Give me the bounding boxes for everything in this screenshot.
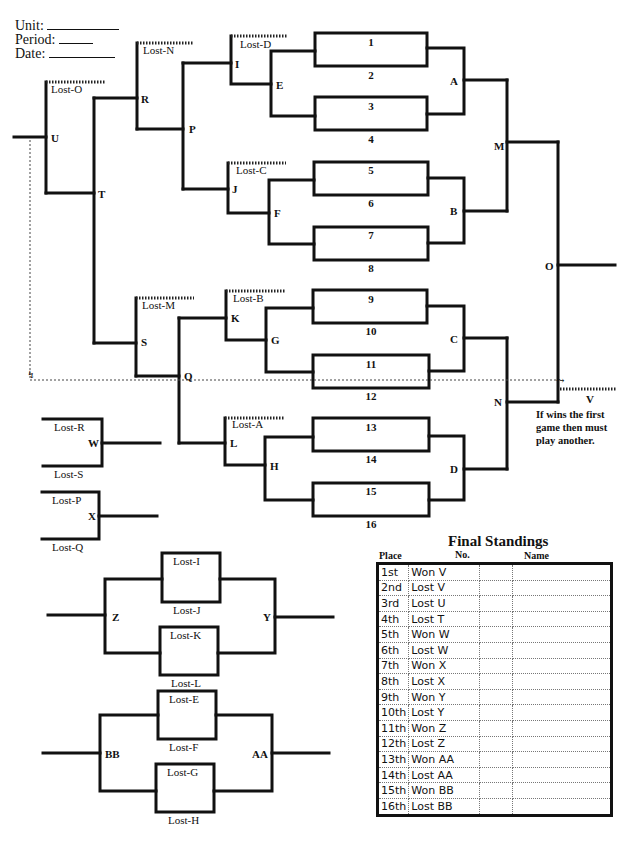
slot-15[interactable]: 15	[356, 485, 386, 497]
number-input[interactable]	[480, 658, 513, 674]
place-cell: 3rd	[378, 596, 409, 612]
place-cell: 11th	[378, 720, 409, 736]
bbaa-box2-bottom: Lost-H	[168, 814, 199, 826]
node-z: Z	[112, 611, 119, 623]
number-input[interactable]	[480, 611, 513, 627]
result-cell: Won BB	[409, 783, 480, 799]
number-input[interactable]	[480, 783, 513, 799]
number-input[interactable]	[480, 674, 513, 690]
node-d: D	[450, 463, 458, 475]
result-cell: Lost V	[409, 580, 480, 596]
number-input[interactable]	[480, 580, 513, 596]
slot-14[interactable]: 14	[356, 453, 386, 465]
place-cell: 10th	[378, 705, 409, 721]
name-input[interactable]	[513, 752, 612, 768]
result-cell: Lost Z	[409, 736, 480, 752]
slot-9[interactable]: 9	[356, 293, 386, 305]
name-input[interactable]	[513, 689, 612, 705]
name-input[interactable]	[513, 720, 612, 736]
place-cell: 5th	[378, 627, 409, 643]
name-input[interactable]	[513, 596, 612, 612]
node-p: P	[189, 123, 196, 135]
result-cell: Won W	[409, 627, 480, 643]
slot-2[interactable]: 2	[356, 69, 386, 81]
number-input[interactable]	[480, 736, 513, 752]
bbaa-box1-bottom: Lost-F	[169, 741, 198, 753]
name-input[interactable]	[513, 658, 612, 674]
name-input[interactable]	[513, 611, 612, 627]
zy-box1-bottom: Lost-J	[173, 604, 201, 616]
bbaa-box1-top: Lost-E	[169, 693, 199, 705]
name-input[interactable]	[513, 674, 612, 690]
place-cell: 4th	[378, 611, 409, 627]
result-cell: Won V	[409, 564, 480, 581]
node-t: T	[98, 188, 105, 200]
note-line-3: play another.	[536, 434, 607, 447]
standings-row: 9thWon Y	[378, 689, 612, 705]
name-input[interactable]	[513, 798, 612, 815]
result-cell: Won X	[409, 658, 480, 674]
name-input[interactable]	[513, 783, 612, 799]
result-cell: Lost BB	[409, 798, 480, 815]
place-cell: 7th	[378, 658, 409, 674]
place-cell: 2nd	[378, 580, 409, 596]
place-cell: 1st	[378, 564, 409, 581]
number-input[interactable]	[480, 689, 513, 705]
number-input[interactable]	[480, 720, 513, 736]
slot-13[interactable]: 13	[356, 421, 386, 433]
zy-box1-top: Lost-I	[173, 555, 200, 567]
place-cell: 13th	[378, 752, 409, 768]
x-top-label: Lost-P	[52, 494, 81, 506]
result-cell: Lost X	[409, 674, 480, 690]
node-r: R	[141, 93, 149, 105]
standings-row: 13thWon AA	[378, 752, 612, 768]
slot-1[interactable]: 1	[356, 36, 386, 48]
result-cell: Lost AA	[409, 767, 480, 783]
slot-7[interactable]: 7	[356, 229, 386, 241]
result-cell: Lost Y	[409, 705, 480, 721]
slot-12[interactable]: 12	[356, 390, 386, 402]
node-s: S	[141, 336, 147, 348]
number-input[interactable]	[480, 627, 513, 643]
name-input[interactable]	[513, 642, 612, 658]
node-v: V	[586, 393, 594, 405]
number-input[interactable]	[480, 705, 513, 721]
node-g: G	[271, 334, 280, 346]
number-input[interactable]	[480, 752, 513, 768]
number-input[interactable]	[480, 798, 513, 815]
number-input[interactable]	[480, 642, 513, 658]
slot-4[interactable]: 4	[356, 133, 386, 145]
standings-row: 16thLost BB	[378, 798, 612, 815]
slot-8[interactable]: 8	[356, 262, 386, 274]
slot-5[interactable]: 5	[356, 164, 386, 176]
number-input[interactable]	[480, 564, 513, 581]
note-line-1: If wins the first	[536, 408, 607, 421]
standings-row: 2ndLost V	[378, 580, 612, 596]
standings-row: 5thWon W	[378, 627, 612, 643]
slot-3[interactable]: 3	[356, 100, 386, 112]
node-m: M	[494, 140, 504, 152]
date-field[interactable]: Date:	[15, 45, 115, 61]
name-input[interactable]	[513, 705, 612, 721]
slot-10[interactable]: 10	[356, 325, 386, 337]
name-input[interactable]	[513, 564, 612, 581]
name-input[interactable]	[513, 767, 612, 783]
result-cell: Lost T	[409, 611, 480, 627]
col-name: Name	[524, 550, 549, 561]
number-input[interactable]	[480, 767, 513, 783]
lost-n-label: Lost-N	[143, 44, 174, 56]
name-input[interactable]	[513, 736, 612, 752]
slot-11[interactable]: 11	[356, 358, 386, 370]
node-y: Y	[263, 611, 271, 623]
number-input[interactable]	[480, 596, 513, 612]
slot-6[interactable]: 6	[356, 197, 386, 209]
name-input[interactable]	[513, 580, 612, 596]
slot-16[interactable]: 16	[356, 518, 386, 530]
lost-o-label: Lost-O	[51, 83, 82, 95]
node-u: U	[51, 132, 59, 144]
date-label: Date:	[15, 46, 45, 61]
node-w: W	[88, 437, 99, 449]
node-i: I	[235, 58, 239, 70]
final-standings-title: Final Standings	[448, 533, 548, 550]
name-input[interactable]	[513, 627, 612, 643]
